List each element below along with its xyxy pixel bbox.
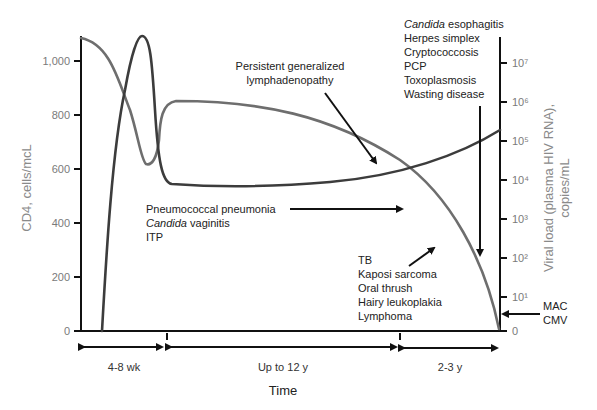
mid-oi-thrush: Oral thrush: [358, 282, 412, 294]
left-tick-0: 0: [64, 325, 70, 337]
right-tick-1e4: 10⁴: [512, 174, 529, 186]
late-oi-toxo: Toxoplasmosis: [404, 74, 477, 86]
span-label-aids: 2-3 y: [438, 361, 463, 373]
late-oi-line1: Candida esophagitis: [404, 18, 504, 30]
left-tick-800: 800: [52, 109, 70, 121]
right-tick-1e3: 10³: [512, 213, 528, 225]
left-tick-600: 600: [52, 163, 70, 175]
pgl-label-line1: Persistent generalized: [236, 60, 345, 72]
early-oi-line3: ITP: [146, 231, 163, 243]
mid-oi-arrow: [409, 248, 434, 266]
right-y-axis: 10⁷ 10⁶ 10⁵ 10⁴ 10³ 10² 10¹ 0 Viral load…: [500, 37, 572, 337]
right-axis-title-line2: copies/mL: [557, 158, 572, 217]
terminal-cmv: CMV: [543, 314, 568, 326]
x-axis-title: Time: [269, 383, 297, 398]
right-tick-1e2: 10²: [512, 252, 528, 264]
right-tick-1e7: 10⁷: [512, 57, 528, 69]
pgl-arrow: [325, 93, 376, 163]
mid-oi-lymphoma: Lymphoma: [358, 310, 413, 322]
late-oi-herpes: Herpes simplex: [404, 32, 480, 44]
right-tick-1e6: 10⁶: [512, 96, 529, 108]
late-oi-wasting: Wasting disease: [404, 88, 484, 100]
left-tick-200: 200: [52, 271, 70, 283]
span-label-latent: Up to 12 y: [258, 361, 309, 373]
late-oi-crypto: Cryptococcosis: [404, 46, 479, 58]
left-axis-title: CD4, cells/mcL: [19, 144, 34, 231]
right-tick-0: 0: [512, 325, 518, 337]
hiv-natural-history-chart: 1,000 800 600 400 200 0 CD4, cells/mcL 1…: [0, 0, 597, 410]
early-oi-line2: Candida vaginitis: [146, 217, 230, 229]
right-tick-1e1: 10¹: [512, 291, 528, 303]
mid-oi-tb: TB: [358, 254, 372, 266]
time-span-markers: [84, 333, 497, 348]
mid-oi-leukoplakia: Hairy leukoplakia: [358, 296, 443, 308]
right-axis-title-line1: Viral load (plasma HIV RNA),: [541, 104, 556, 272]
pgl-label-line2: lymphadenopathy: [247, 74, 334, 86]
left-tick-400: 400: [52, 217, 70, 229]
left-tick-1000: 1,000: [42, 55, 70, 67]
mid-oi-kaposi: Kaposi sarcoma: [358, 268, 438, 280]
early-oi-line1: Pneumococcal pneumonia: [146, 203, 277, 215]
terminal-mac: MAC: [543, 300, 568, 312]
late-oi-pcp: PCP: [404, 60, 427, 72]
span-label-acute: 4-8 wk: [108, 361, 141, 373]
right-tick-1e5: 10⁵: [512, 135, 529, 147]
